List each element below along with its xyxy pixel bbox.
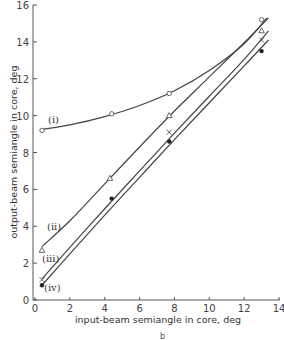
curve-label-iii: (iii) (42, 253, 59, 264)
marker-filled-circle (259, 49, 263, 53)
marker-cross (167, 130, 172, 135)
y-tick-label: 6 (23, 184, 29, 195)
marker-open-triangle (39, 247, 45, 252)
x-tick-label: 8 (171, 303, 177, 314)
y-axis-title: output-beam semiangle in core, deg (8, 66, 19, 239)
x-tick-label: 14 (273, 303, 284, 314)
marker-filled-circle (109, 196, 113, 200)
x-tick-label: 10 (203, 303, 216, 314)
markers (39, 18, 264, 288)
curve-label-iv: (iv) (44, 282, 61, 293)
curve-label-i: (i) (48, 114, 59, 125)
x-axis-title: input-beam semiangle in core, deg (75, 314, 241, 325)
figure-sublabel: b (160, 332, 165, 340)
y-tick-label: 8 (23, 148, 29, 159)
curve-label-ii: (ii) (47, 221, 61, 232)
curve-2 (42, 18, 269, 247)
marker-open-circle (40, 128, 44, 132)
curve-1 (42, 18, 267, 130)
y-tick-label: 0 (23, 295, 29, 306)
marker-open-circle (109, 112, 113, 116)
marker-open-circle (167, 91, 171, 95)
x-tick-label: 4 (102, 303, 108, 314)
y-tick-label: 16 (16, 0, 29, 11)
curves (42, 18, 269, 285)
axes: 024681012140246810121416 (16, 0, 284, 314)
marker-open-circle (259, 18, 263, 22)
x-tick-label: 12 (238, 303, 251, 314)
marker-open-triangle (259, 28, 265, 33)
marker-filled-circle (167, 139, 171, 143)
x-tick-label: 0 (32, 303, 38, 314)
y-tick-label: 2 (23, 258, 29, 269)
x-tick-label: 6 (136, 303, 142, 314)
curve-4 (42, 40, 269, 285)
y-tick-label: 14 (16, 37, 29, 48)
y-tick-label: 4 (23, 221, 29, 232)
x-tick-label: 2 (67, 303, 73, 314)
chart-canvas: 024681012140246810121416 input-beam semi… (0, 0, 284, 340)
curve-3 (42, 31, 269, 279)
